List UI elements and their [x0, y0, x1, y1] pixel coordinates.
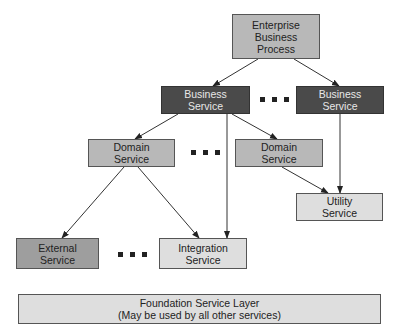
node-label-line: Service [188, 100, 223, 112]
domain-service-right-node: Domain Service [235, 139, 323, 167]
enterprise-business-process-node: Enterprise Business Process [232, 14, 320, 59]
node-label-line: Domain [261, 141, 297, 153]
node-label-line: Service [261, 153, 296, 165]
business-service-left-node: Business Service [161, 86, 250, 114]
node-label-line: Enterprise [252, 19, 300, 31]
foundation-service-layer: Foundation Service Layer (May be used by… [18, 294, 381, 324]
node-label-line: Service [322, 100, 357, 112]
node-label-line: Service [322, 207, 357, 219]
node-label-line: (May be used by all other services) [118, 309, 281, 321]
node-label-line: Service [114, 153, 149, 165]
node-label-line: Business [255, 31, 298, 43]
external-service-node: External Service [16, 238, 99, 269]
business-service-right-node: Business Service [296, 86, 384, 114]
node-label-line: Utility [327, 195, 353, 207]
utility-service-node: Utility Service [296, 193, 383, 221]
node-label-line: Integration [178, 242, 228, 254]
domain-service-left-node: Domain Service [88, 139, 175, 167]
integration-service-node: Integration Service [159, 238, 247, 269]
ellipsis-domain [191, 150, 220, 155]
node-label-line: Foundation Service Layer [140, 297, 260, 309]
node-label-line: Service [40, 254, 75, 266]
node-label-line: Business [184, 88, 227, 100]
node-label-line: Process [257, 43, 295, 55]
ellipsis-leaf [118, 252, 147, 257]
node-label-line: Business [319, 88, 362, 100]
connector-lines [0, 0, 396, 334]
ellipsis-business [260, 97, 289, 102]
node-label-line: Service [185, 254, 220, 266]
service-hierarchy-diagram: Enterprise Business Process Business Ser… [0, 0, 396, 334]
node-label-line: External [38, 242, 77, 254]
node-label-line: Domain [113, 141, 149, 153]
